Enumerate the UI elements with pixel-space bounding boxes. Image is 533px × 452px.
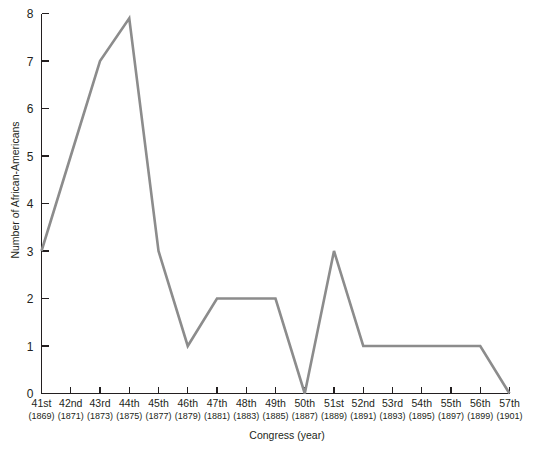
y-tick-label: 8 <box>27 7 34 21</box>
y-axis-title: Number of African-Americans <box>9 121 21 258</box>
x-tick-label-congress: 50th <box>295 397 316 409</box>
x-tick-label-year: (1895) <box>409 411 435 421</box>
y-tick-label: 1 <box>27 340 34 354</box>
x-tick-label-year: (1881) <box>204 411 230 421</box>
x-tick-label-year: (1873) <box>87 411 113 421</box>
x-axis-title: Congress (year) <box>249 429 324 441</box>
chart-background <box>0 0 533 452</box>
x-tick-label-year: (1885) <box>262 411 288 421</box>
x-tick-label-congress: 49th <box>265 397 286 409</box>
x-tick-label-year: (1883) <box>233 411 259 421</box>
y-tick-label: 5 <box>27 150 34 164</box>
y-tick-label: 6 <box>27 102 34 116</box>
x-tick-label-congress: 48th <box>236 397 257 409</box>
y-tick-label: 3 <box>27 245 34 259</box>
x-tick-label-year: (1901) <box>496 411 522 421</box>
x-tick-label-year: (1899) <box>467 411 493 421</box>
x-tick-label-congress: 46th <box>178 397 199 409</box>
x-tick-label-year: (1871) <box>58 411 84 421</box>
x-tick-label-congress: 43rd <box>89 397 110 409</box>
x-tick-label-congress: 55th <box>441 397 462 409</box>
chart-container: 012345678 41st(1869)42nd(1871)43rd(1873)… <box>0 0 533 452</box>
x-tick-label-congress: 56th <box>470 397 491 409</box>
y-tick-label: 2 <box>27 292 34 306</box>
x-tick-label-congress: 47th <box>207 397 228 409</box>
x-tick-label-year: (1893) <box>379 411 405 421</box>
x-tick-label-congress: 57th <box>499 397 520 409</box>
x-tick-label-congress: 52nd <box>352 397 376 409</box>
x-tick-label-congress: 41st <box>32 397 52 409</box>
x-tick-label-congress: 54th <box>412 397 433 409</box>
x-tick-label-congress: 53rd <box>382 397 403 409</box>
x-tick-label-year: (1875) <box>116 411 142 421</box>
x-tick-label-year: (1887) <box>292 411 318 421</box>
x-tick-label-year: (1879) <box>175 411 201 421</box>
y-tick-label: 7 <box>27 55 34 69</box>
x-tick-label-congress: 45th <box>148 397 169 409</box>
x-tick-label-year: (1877) <box>145 411 171 421</box>
x-tick-label-year: (1869) <box>28 411 54 421</box>
x-tick-label-congress: 51st <box>324 397 344 409</box>
line-chart: 012345678 41st(1869)42nd(1871)43rd(1873)… <box>0 0 533 452</box>
x-tick-label-year: (1889) <box>321 411 347 421</box>
x-tick-label-congress: 42nd <box>59 397 83 409</box>
x-tick-label-year: (1897) <box>438 411 464 421</box>
y-tick-label: 4 <box>27 197 34 211</box>
x-tick-label-congress: 44th <box>119 397 140 409</box>
x-tick-label-year: (1891) <box>350 411 376 421</box>
